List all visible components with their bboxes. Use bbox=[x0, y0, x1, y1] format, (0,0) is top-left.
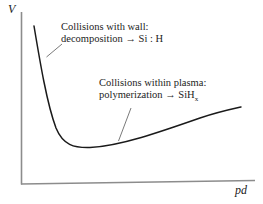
annotation-collisions-within-plasma: Collisions within plasma: polymerization… bbox=[99, 77, 206, 102]
annotation-wall-line-2: decomposition → Si : H bbox=[61, 33, 163, 45]
annotation-wall-line-1: Collisions with wall: bbox=[61, 21, 163, 33]
y-axis-label: V bbox=[8, 3, 15, 15]
annotation-plasma-line-2-wrap: polymerization → SiHx bbox=[99, 89, 206, 101]
annotation-collisions-with-wall: Collisions with wall: decomposition → Si… bbox=[61, 21, 163, 46]
figure-canvas: V pd Collisions with wall: decomposition… bbox=[0, 0, 263, 204]
leader-line-plasma bbox=[119, 108, 132, 141]
x-axis-label: pd bbox=[235, 184, 247, 196]
leader-line-wall bbox=[47, 44, 63, 57]
annotation-plasma-line-2: polymerization → SiH bbox=[99, 89, 195, 100]
annotation-plasma-line-1: Collisions within plasma: bbox=[99, 77, 206, 89]
x-axis bbox=[21, 181, 255, 185]
annotation-plasma-subscript: x bbox=[195, 95, 199, 103]
